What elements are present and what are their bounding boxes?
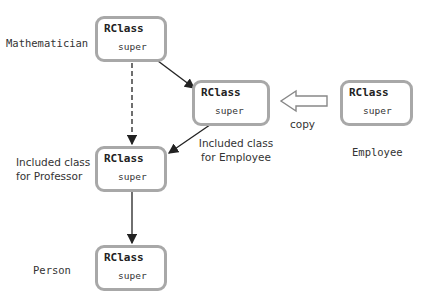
super-field: super (118, 270, 147, 281)
rclass-box-included-employee: RClass super (192, 80, 270, 126)
super-field: super (215, 105, 244, 116)
super-field: super (118, 171, 147, 182)
rclass-box-mathematician: RClass super (95, 16, 167, 62)
rclass-box-person: RClass super (95, 245, 167, 291)
label-line: for Employee (186, 150, 286, 164)
label-employee: Employee (352, 145, 403, 159)
label-mathematician: Mathematician (6, 36, 88, 50)
label-person: Person (33, 263, 71, 277)
copy-arrow-icon (281, 91, 327, 111)
label-included-class-for-professor: Included class for Professor (16, 155, 90, 183)
rclass-title: RClass (104, 251, 144, 264)
super-field: super (363, 105, 392, 116)
label-line: Included class (16, 155, 90, 169)
class-hierarchy-diagram: RClass super Mathematician RClass super … (0, 0, 422, 297)
label-line: for Professor (16, 169, 90, 183)
rclass-title: RClass (349, 86, 389, 99)
rclass-box-employee: RClass super (340, 80, 413, 126)
label-copy: copy (290, 117, 315, 131)
rclass-title: RClass (104, 22, 144, 35)
label-included-class-for-employee: Included class for Employee (186, 136, 286, 164)
super-field: super (118, 41, 147, 52)
rclass-box-included-professor: RClass super (95, 146, 167, 192)
rclass-title: RClass (201, 86, 241, 99)
label-line: Included class (186, 136, 286, 150)
rclass-title: RClass (104, 152, 144, 165)
